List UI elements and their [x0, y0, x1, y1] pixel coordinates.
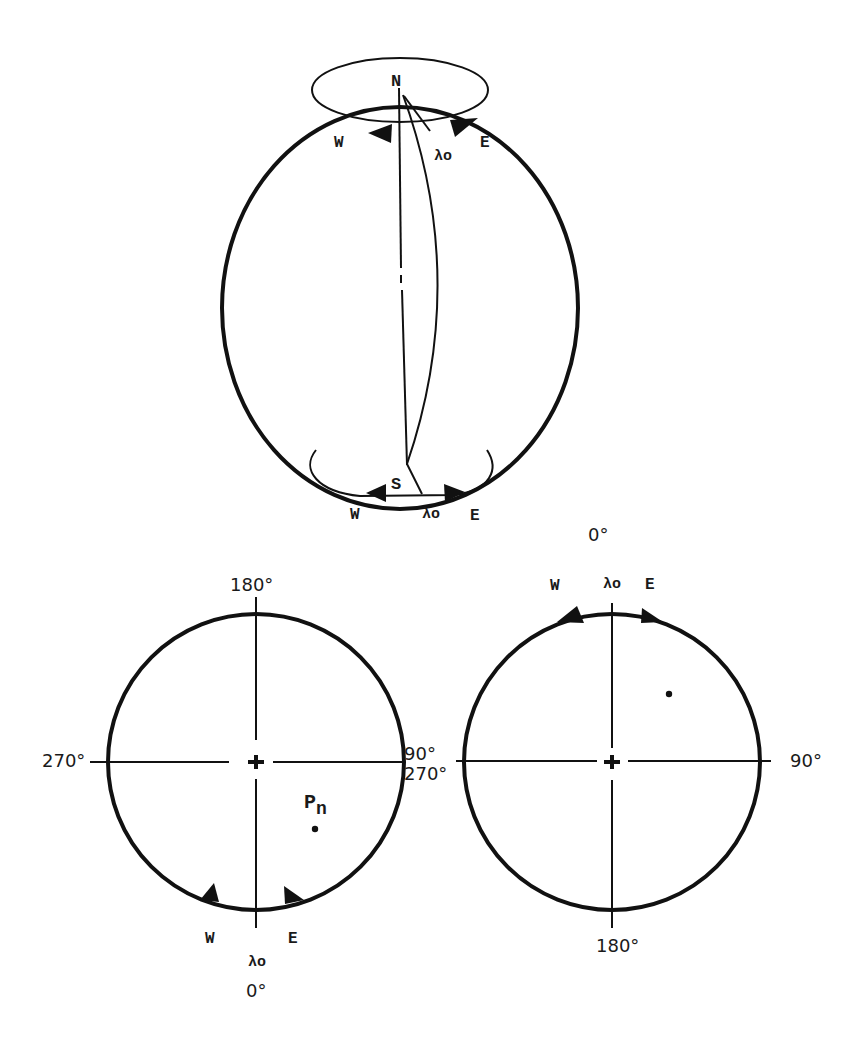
south-east-label: E	[470, 507, 480, 525]
left-view-left-label: 270°	[42, 750, 85, 771]
south-rotation-ellipse	[310, 450, 492, 496]
right-view-point	[666, 691, 672, 697]
right-view-left-label: 270°	[404, 763, 447, 784]
right-view-right-label: 90°	[790, 750, 822, 771]
south-pole-label: S	[391, 475, 401, 494]
left-view-top-label: 180°	[230, 574, 273, 595]
south-lambda-tick	[407, 464, 422, 494]
right-view-lambda-label: λo	[603, 576, 621, 593]
right-view-west-label: W	[550, 577, 560, 595]
right-view-west-arrow-icon	[557, 606, 584, 623]
left-view-west-label: W	[205, 930, 215, 948]
right-view-top-label: 0°	[588, 524, 608, 545]
north-lambda-label: λo	[434, 148, 452, 165]
north-west-label: W	[334, 134, 344, 152]
polar-axis-upper	[399, 88, 401, 268]
north-east-arrow-icon	[450, 118, 478, 137]
north-east-label: E	[480, 134, 490, 152]
south-lambda-label: λo	[422, 506, 440, 523]
north-pole-label: N	[391, 72, 401, 91]
left-view-center-cross-icon	[248, 755, 264, 769]
meridian-lambda	[403, 95, 438, 464]
right-polar-view: 0° W λo E 270° 90° 180°	[404, 524, 822, 956]
polar-axis-lower	[402, 290, 407, 465]
left-view-lambda-label: λo	[248, 954, 266, 971]
north-lambda-tick	[404, 96, 430, 131]
left-view-east-label: E	[288, 930, 298, 948]
right-view-bottom-label: 180°	[596, 935, 639, 956]
right-view-center-cross-icon	[604, 755, 620, 769]
north-west-arrow-icon	[368, 124, 392, 143]
left-view-pole-point	[312, 826, 318, 832]
left-view-point-label: Pn	[304, 791, 327, 819]
left-view-west-arrow-icon	[200, 883, 219, 902]
right-view-east-arrow-icon	[641, 608, 663, 623]
left-polar-view: 180° 270° 90° Pn W E λo 0°	[42, 574, 436, 1001]
left-view-right-label: 90°	[404, 743, 436, 764]
polar-projection-diagram: N W E λo S W λo E 180° 270° 90° Pn W E λ…	[0, 0, 866, 1043]
right-view-east-label: E	[645, 576, 655, 594]
globe: N W E λo S W λo E	[222, 58, 578, 525]
south-west-arrow-icon	[366, 484, 386, 502]
south-west-label: W	[350, 506, 360, 524]
left-view-bottom-label: 0°	[246, 980, 266, 1001]
